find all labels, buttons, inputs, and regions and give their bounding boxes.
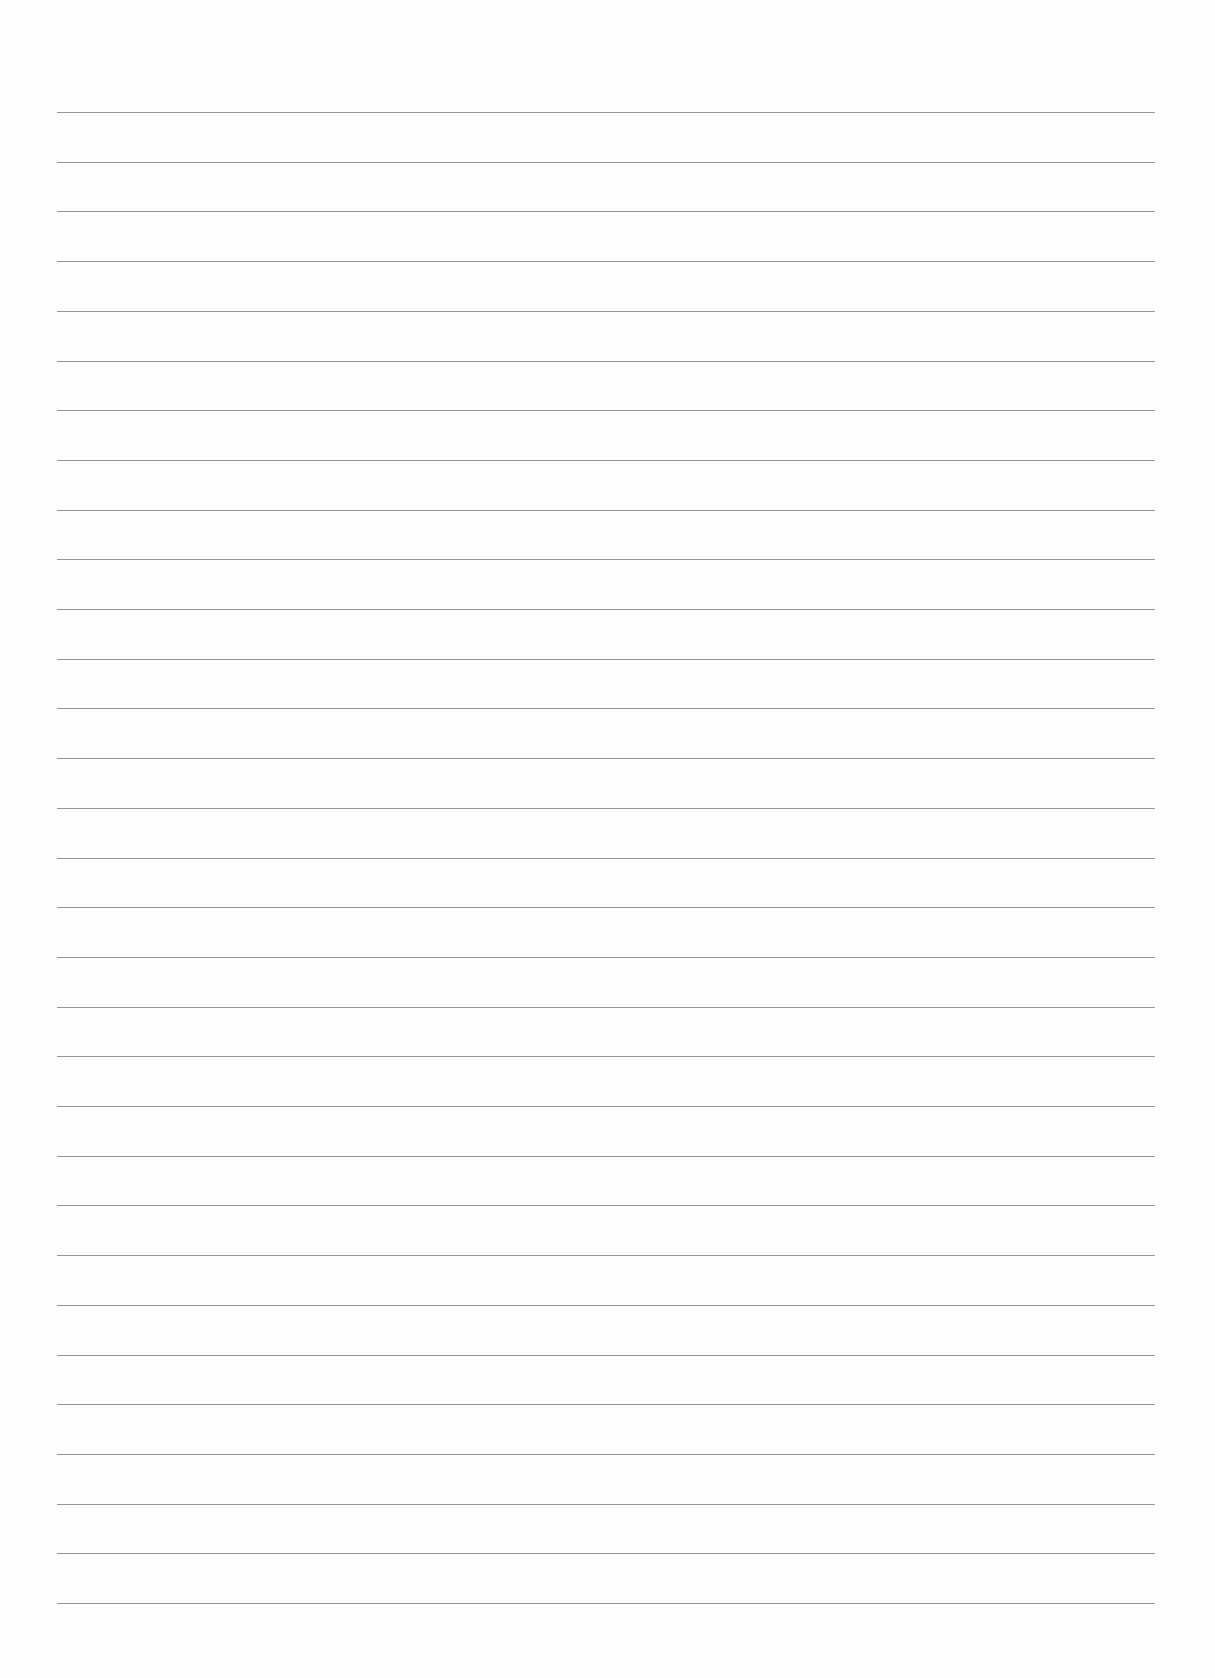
ruled-line (57, 609, 1155, 611)
ruled-line (57, 559, 1155, 561)
ruled-line (57, 1205, 1155, 1207)
ruled-line (57, 1007, 1155, 1009)
ruled-line (57, 410, 1155, 412)
ruled-line (57, 361, 1155, 363)
ruled-line (57, 311, 1155, 313)
ruled-line (57, 1255, 1155, 1257)
ruled-line (57, 460, 1155, 462)
ruled-line (57, 1156, 1155, 1158)
ruled-line (57, 1056, 1155, 1058)
lined-paper-page (0, 0, 1215, 1678)
ruled-line (57, 1454, 1155, 1456)
ruled-line (57, 659, 1155, 661)
ruled-line (57, 1404, 1155, 1406)
ruled-line (57, 907, 1155, 909)
ruled-line (57, 708, 1155, 710)
ruled-line (57, 1553, 1155, 1555)
ruled-line (57, 858, 1155, 860)
ruled-line (57, 1355, 1155, 1357)
ruled-line (57, 808, 1155, 810)
ruled-line (57, 957, 1155, 959)
ruled-line (57, 1305, 1155, 1307)
ruled-line (57, 112, 1155, 114)
ruled-line (57, 1603, 1155, 1605)
ruled-line (57, 510, 1155, 512)
ruled-line (57, 261, 1155, 263)
ruled-line (57, 1504, 1155, 1506)
ruled-line (57, 162, 1155, 164)
ruled-line (57, 1106, 1155, 1108)
ruled-line (57, 211, 1155, 213)
ruled-line (57, 758, 1155, 760)
